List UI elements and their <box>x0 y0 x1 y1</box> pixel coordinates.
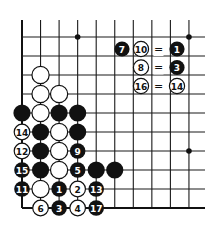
white-stone: 8 <box>133 60 148 75</box>
black-stone-disc <box>51 104 68 121</box>
black-stone <box>32 161 49 178</box>
white-stone <box>51 85 68 102</box>
equals-sign: = <box>154 61 163 74</box>
black-stone: 1 <box>51 181 67 197</box>
white-stone <box>32 104 49 121</box>
black-stone <box>51 104 68 121</box>
move-number: 5 <box>75 166 81 176</box>
move-number: 4 <box>75 204 81 214</box>
black-stone-disc <box>69 123 86 140</box>
black-stone: 5 <box>70 162 86 178</box>
black-stone <box>88 161 105 178</box>
move-number: 1 <box>174 45 180 55</box>
black-stone: 1 <box>169 41 184 56</box>
white-stone-disc <box>51 142 68 159</box>
white-stone <box>51 161 68 178</box>
move-number: 15 <box>16 166 29 176</box>
white-stone: 16 <box>133 78 148 93</box>
black-stone-disc <box>88 161 105 178</box>
white-stone-disc <box>32 104 49 121</box>
move-number: 14 <box>16 128 29 138</box>
white-stone <box>32 180 49 197</box>
black-stone: 3 <box>51 200 67 216</box>
move-number: 8 <box>138 63 144 73</box>
black-stone-disc <box>32 123 49 140</box>
white-stone-disc <box>32 66 49 83</box>
move-number: 3 <box>174 63 180 73</box>
annotation-line: 16=14 <box>133 78 184 93</box>
black-stone <box>13 104 30 121</box>
move-number: 7 <box>119 45 125 55</box>
equals-sign: = <box>154 43 163 56</box>
black-stone: 15 <box>14 162 30 178</box>
black-stone <box>32 142 49 159</box>
move-number: 6 <box>37 204 43 214</box>
black-stone: 7 <box>114 41 129 56</box>
black-stone: 3 <box>169 60 184 75</box>
move-number: 10 <box>135 45 148 55</box>
black-stone <box>32 123 49 140</box>
move-number: 12 <box>16 147 29 157</box>
white-stone: 4 <box>70 200 86 216</box>
white-stone: 12 <box>14 143 30 159</box>
star-point <box>186 34 192 40</box>
annotation-line: 8=3 <box>133 60 184 75</box>
white-stone-disc <box>32 85 49 102</box>
black-stone-disc <box>69 104 86 121</box>
white-stone: 14 <box>14 124 30 140</box>
annotation-line: 710=1 <box>114 41 184 56</box>
white-stone-disc <box>51 123 68 140</box>
black-stone-disc <box>32 142 49 159</box>
move-number: 2 <box>75 185 81 195</box>
move-number: 16 <box>135 82 148 92</box>
white-stone-disc <box>51 161 68 178</box>
equals-sign: = <box>154 80 163 93</box>
white-stone: 2 <box>70 181 86 197</box>
black-stone: 13 <box>88 181 104 197</box>
move-number: 13 <box>90 185 103 195</box>
white-stone <box>32 85 49 102</box>
black-stone: 11 <box>14 181 30 197</box>
white-stone: 6 <box>33 200 49 216</box>
move-number: 3 <box>56 204 62 214</box>
black-stone-disc <box>13 104 30 121</box>
black-stone <box>69 104 86 121</box>
move-number: 11 <box>16 185 29 195</box>
white-stone <box>32 66 49 83</box>
white-stone-disc <box>32 180 49 197</box>
move-number: 14 <box>171 82 184 92</box>
go-board: 1412915511121363417 710=18=316=14 <box>0 0 218 225</box>
stones: 1412915511121363417 <box>13 66 123 215</box>
move-annotations: 710=18=316=14 <box>114 41 184 93</box>
white-stone-disc <box>51 85 68 102</box>
star-point <box>186 148 192 154</box>
move-number: 1 <box>56 185 62 195</box>
move-number: 17 <box>90 204 103 214</box>
black-stone: 17 <box>88 200 104 216</box>
black-stone: 9 <box>70 143 86 159</box>
black-stone <box>106 161 123 178</box>
black-stone-disc <box>106 161 123 178</box>
white-stone <box>51 142 68 159</box>
white-stone <box>51 123 68 140</box>
white-stone: 10 <box>133 41 148 56</box>
move-number: 9 <box>75 147 81 157</box>
white-stone: 14 <box>169 78 184 93</box>
black-stone-disc <box>32 161 49 178</box>
star-point <box>75 34 81 40</box>
black-stone <box>69 123 86 140</box>
